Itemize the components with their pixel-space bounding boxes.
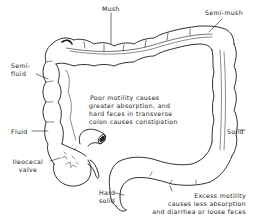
label-hard-solid-line2: solid — [99, 197, 115, 204]
note-excess-motility-line: causes less absorption — [168, 200, 246, 207]
cecum — [53, 129, 107, 186]
label-hard-solid-line1: Hard — [99, 189, 115, 196]
label-ileocecal-line1: Ileocecal — [8, 158, 48, 165]
descending-colon — [212, 44, 237, 156]
label-semi-fluid-line1: Semi- — [11, 62, 30, 69]
note-poor-motility-line: greater absorption, and — [89, 102, 170, 109]
label-ileocecal-line2: valve — [8, 166, 48, 173]
label-semi-fluid-line2: fluid — [11, 70, 26, 77]
label-fluid: Fluid — [11, 128, 28, 135]
note-excess-motility-line: Excess motility — [194, 192, 246, 199]
label-solid: Solid — [227, 128, 244, 135]
note-poor-motility-line: hard feces in transverse — [89, 110, 172, 117]
ascending-colon — [43, 44, 76, 164]
label-semi-mush: Semi-mush — [205, 9, 243, 16]
note-excess-motility-line: and diarrhea or loose feces — [152, 208, 246, 215]
note-poor-motility-line: colon causes constipation — [89, 118, 178, 125]
label-mush: Mush — [102, 5, 120, 12]
transverse-colon — [52, 26, 234, 66]
note-poor-motility-line: Poor motility causes — [90, 94, 159, 101]
